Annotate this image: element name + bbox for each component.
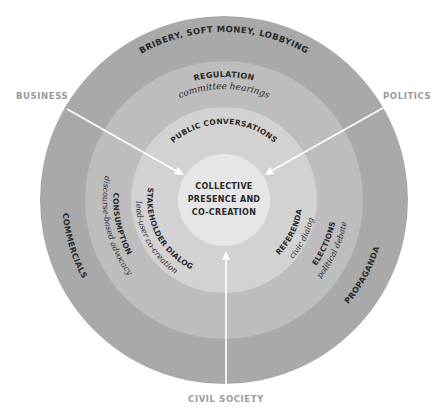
stakeholder-ring-diagram: BUSINESS POLITICS CIVIL SOCIETY COLLECTI… — [0, 0, 439, 414]
center-line-2: PRESENCE AND — [188, 195, 261, 204]
center-line-1: COLLECTIVE — [195, 182, 252, 191]
civil-society-label: CIVIL SOCIETY — [188, 394, 264, 404]
business-label: BUSINESS — [16, 91, 68, 101]
politics-label: POLITICS — [383, 91, 431, 101]
center-line-3: CO-CREATION — [192, 208, 256, 217]
